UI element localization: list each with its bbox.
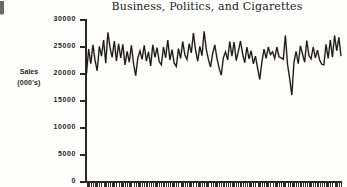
chart-figure: Business, Politics, and Cigarettes Sales… <box>0 0 347 187</box>
series-line-cigarette-sales <box>87 31 342 95</box>
series-plot-area <box>0 0 347 187</box>
